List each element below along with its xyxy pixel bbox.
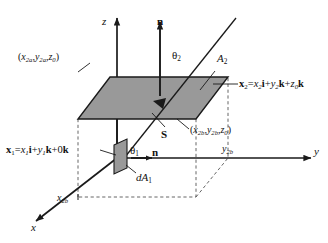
- axis-label-z: z: [102, 16, 106, 27]
- a2-letter: A: [217, 52, 224, 64]
- leader-corner-2a: [78, 63, 90, 72]
- paren-close: ): [56, 51, 59, 62]
- dashed-base-diagonal: [196, 158, 228, 197]
- y-subscript: 2b: [211, 129, 218, 136]
- corner-coordinate-2b: (x2b,y2b,z0): [190, 125, 231, 136]
- paren-close: ): [228, 124, 231, 135]
- area-label-a2: A2: [217, 53, 227, 66]
- figure-canvas: [0, 0, 328, 243]
- axis-label-x: x: [31, 222, 36, 233]
- term3-unit-vector: k: [298, 78, 304, 89]
- da1-subscript: 1: [148, 177, 152, 185]
- position-vector-x2-equation: x2=x2i+y2k+z0k: [239, 79, 304, 91]
- theta2-subscript: 2: [177, 55, 181, 63]
- axis-label-y: y: [314, 146, 319, 157]
- position-vector-x1-equation: x1=x1i+y1k+0k: [6, 145, 69, 157]
- normal-label-top: n: [157, 16, 163, 27]
- vector-label-s: S: [161, 129, 167, 140]
- y-subscript: 2a: [39, 56, 46, 63]
- axis-tick-label-y2b: y2b: [222, 144, 233, 155]
- differential-area-label: dA1: [136, 172, 152, 185]
- a2-subscript: 2: [224, 58, 228, 66]
- term3-unit-vector: k: [63, 144, 69, 155]
- radiation-geometry-figure: z y x n n θ2 θ1 A2 S dA1 (x2a,y2a,z0) (x…: [0, 0, 328, 243]
- y2b-subscript: 2b: [226, 148, 233, 155]
- differential-area-da1: [114, 139, 127, 174]
- x2b-subscript: 2b: [61, 197, 68, 204]
- angle-label-theta2: θ2: [172, 50, 181, 63]
- angle-label-theta1: θ1: [130, 145, 139, 158]
- axis-tick-label-x2b: x2b: [57, 193, 68, 204]
- corner-coordinate-2a: (x2a,y2a,z0): [18, 52, 59, 63]
- leader-corner-2b: [177, 119, 189, 129]
- leader-da1: [126, 165, 136, 173]
- normal-label-bottom: n: [152, 147, 158, 158]
- x-axis: [36, 158, 117, 221]
- theta1-subscript: 1: [135, 150, 139, 158]
